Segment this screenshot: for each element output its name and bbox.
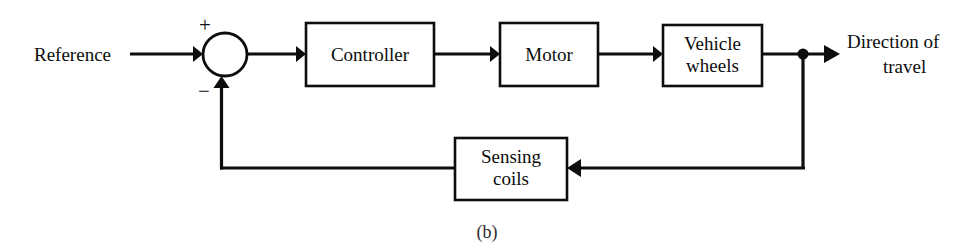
arrowhead-motor-to-vehicle-wheels	[653, 46, 663, 62]
direction-of-travel-label-line2: travel	[883, 56, 926, 77]
arrowhead-output-direction	[824, 45, 840, 63]
reference-input-label: Reference	[34, 44, 111, 65]
block-sensing-coils-label-line1: Sensing	[481, 146, 542, 167]
summing-junction-plus-sign: +	[199, 13, 211, 37]
arrowhead-into-sensing-coils	[567, 159, 581, 177]
block-sensing-coils-label-line2: coils	[493, 168, 529, 189]
block-controller-label: Controller	[331, 44, 410, 65]
direction-of-travel-label-line1: Direction of	[847, 31, 940, 52]
block-vehicle-wheels-label-line2: wheels	[686, 55, 739, 76]
arrowhead-controller-to-motor	[490, 46, 500, 62]
summing-junction-circle	[203, 33, 247, 76]
arrowhead-sum-to-controller	[296, 46, 306, 62]
arrowhead-reference-to-sum	[193, 46, 203, 62]
figure-caption: (b)	[477, 222, 498, 243]
arrowhead-into-sum-feedback	[214, 76, 230, 88]
block-vehicle-wheels-label-line1: Vehicle	[684, 33, 741, 54]
block-diagram-canvas: + − Controller Motor Vehicle wheels Sens…	[0, 0, 968, 251]
block-motor-label: Motor	[525, 44, 573, 65]
block-diagram-figure: + − Controller Motor Vehicle wheels Sens…	[0, 0, 968, 251]
summing-junction-minus-sign: −	[198, 79, 210, 103]
